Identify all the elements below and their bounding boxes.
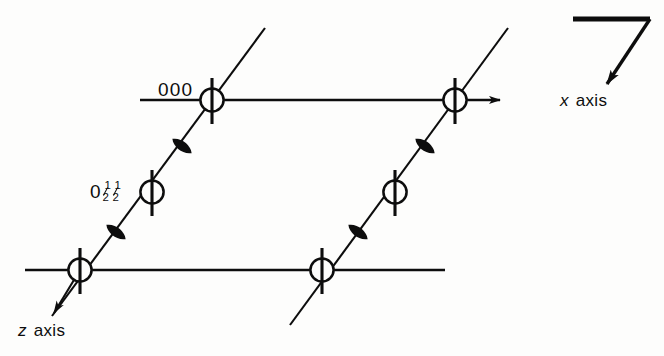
label-origin-000: 000 — [158, 80, 193, 99]
lens-lower-right — [345, 221, 370, 243]
label-x-axis: xaxis — [560, 92, 607, 109]
y-axis-corner-arrow — [573, 19, 650, 84]
node-mid-right — [383, 170, 407, 216]
x-axis-symbol: x — [560, 91, 576, 110]
label-half-site: 0 1 2 1 2 — [90, 180, 121, 203]
label-half-leading-zero: 0 — [90, 182, 101, 201]
z-axis-symbol: z — [18, 321, 34, 340]
z-axis-word: axis — [34, 321, 65, 340]
node-top-right — [443, 78, 467, 124]
crystallographic-diagram: 000 0 1 2 1 2 xaxis zaxis — [0, 0, 664, 356]
diagram-canvas — [0, 0, 664, 356]
node-mid-left-half — [140, 170, 164, 216]
lattice-nodes — [68, 78, 467, 294]
node-origin-000 — [200, 78, 224, 124]
node-bottom-right — [310, 248, 334, 294]
fraction-one-half-second: 1 2 — [111, 180, 120, 203]
x-axis-word: axis — [576, 91, 607, 110]
label-z-axis: zaxis — [18, 322, 65, 339]
fraction-one-half-first: 1 2 — [101, 180, 110, 203]
diagonal-rails — [52, 28, 508, 325]
node-bottom-left — [68, 248, 92, 294]
